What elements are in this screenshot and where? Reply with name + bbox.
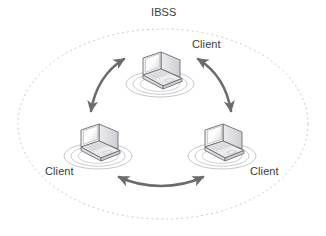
link-top-left — [91, 59, 124, 111]
laptop-icon — [126, 52, 194, 97]
ibss-network-diagram: IBSS Client Client Client — [0, 0, 326, 236]
client-label-right: Client — [250, 165, 279, 177]
client-node-right[interactable] — [188, 124, 256, 169]
laptop-icon — [188, 124, 256, 169]
link-left-right — [119, 177, 203, 186]
client-node-top[interactable] — [126, 52, 194, 97]
diagram-canvas — [0, 0, 326, 236]
laptop-icon — [64, 124, 132, 169]
client-label-top: Client — [192, 38, 221, 50]
client-label-left: Client — [45, 165, 74, 177]
ibss-title-label: IBSS — [151, 6, 176, 18]
client-node-left[interactable] — [64, 124, 132, 169]
link-top-right — [198, 59, 231, 111]
